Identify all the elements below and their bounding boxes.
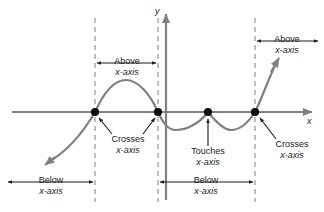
annotation-crosses-right: Crosses x-axis [268,139,316,160]
annotation-below-right: Below x-axis [184,175,228,196]
annotation-above-left: Above x-axis [105,56,149,77]
annotation-below-right-line2: x-axis [194,186,218,196]
annotation-crosses-right-line1: Crosses [275,139,308,149]
annotation-crosses-left-line2: x-axis [116,145,140,155]
annotation-touches: Touches x-axis [184,146,232,167]
annotation-below-left-line2: x-axis [39,186,63,196]
leader-crosses-left-to-root2 [143,118,155,134]
annotation-above-right-line2: x-axis [275,45,299,55]
annotation-touches-line1: Touches [191,146,225,156]
annotation-above-right-line1: Above [274,34,300,44]
leader-crosses-left-to-root1 [99,118,112,134]
annotation-below-right-line1: Below [194,175,219,185]
annotation-above-left-line2: x-axis [115,67,139,77]
leader-crosses-right-to-root4 [260,118,276,139]
root-marker-1 [91,108,99,116]
y-axis-label: y [155,6,160,16]
x-axis-label: x [307,116,312,126]
annotation-touches-line2: x-axis [196,157,220,167]
root-marker-3 [204,108,212,116]
annotation-crosses-right-line2: x-axis [280,150,304,160]
annotation-above-right: Above x-axis [265,34,309,55]
root-marker-2 [154,108,162,116]
curve-left-arrow [45,157,55,165]
dashed-guide-lines [95,18,255,202]
annotation-above-left-line1: Above [114,56,140,66]
root-marker-4 [251,108,259,116]
polynomial-axis-behavior-figure: y x Above x-axis Above x-axis Below x-ax… [0,0,324,212]
annotation-crosses-left: Crosses x-axis [104,134,152,155]
annotation-crosses-left-line1: Crosses [111,134,144,144]
annotation-below-left-line1: Below [39,175,64,185]
curve-right-arrow [271,58,279,72]
annotation-below-left: Below x-axis [29,175,73,196]
